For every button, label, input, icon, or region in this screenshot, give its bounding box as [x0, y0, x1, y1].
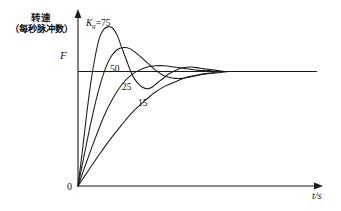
gain-value-75: 75 — [101, 18, 111, 28]
y-axis-symbol-F: F — [60, 49, 67, 61]
gain-subscript: g — [92, 22, 95, 29]
y-axis-label-line2: （每秒脉冲数） — [8, 24, 74, 34]
curve-label-gain-50: 50 — [110, 64, 120, 75]
curve-label-gain-15: 15 — [138, 98, 148, 109]
response-curves-group — [78, 27, 316, 186]
response-curve-25 — [78, 66, 316, 186]
response-curve-kg-75 — [78, 27, 316, 186]
y-axis-label: 转速 （每秒脉冲数） — [8, 13, 74, 34]
origin-label: 0 — [67, 181, 72, 192]
x-axis-label: t/s — [312, 190, 321, 201]
step-response-figure: 转速 （每秒脉冲数） F 0 t/s Kg=75 50 25 15 — [0, 0, 341, 211]
response-curve-15 — [78, 71, 316, 186]
y-axis-arrow-icon — [75, 9, 82, 18]
y-axis — [75, 9, 82, 186]
x-axis — [78, 183, 323, 190]
curve-label-gain-75: Kg=75 — [86, 18, 111, 29]
x-axis-arrow-icon — [314, 183, 323, 190]
curve-label-gain-25: 25 — [122, 82, 132, 93]
